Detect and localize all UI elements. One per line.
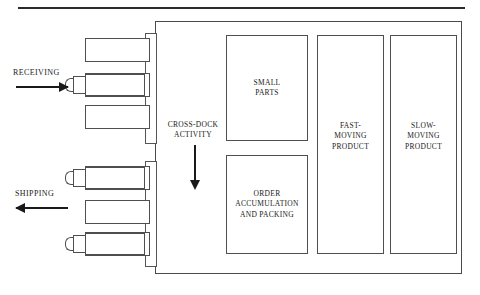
receiving-bay-3 <box>85 105 150 129</box>
zone-fast-moving-product: FAST- MOVING PRODUCT <box>317 35 384 254</box>
zone-small-parts-label: SMALL PARTS <box>254 78 281 99</box>
shipping-truck-1 <box>63 167 145 189</box>
zone-order-accumulation-label: ORDER ACCUMULATION AND PACKING <box>235 189 299 221</box>
zone-fast-moving-label: FAST- MOVING PRODUCT <box>332 121 369 153</box>
truck-trailer-icon <box>85 167 145 189</box>
cross-dock-activity-label: CROSS-DOCK ACTIVITY <box>157 120 229 140</box>
zone-small-parts: SMALL PARTS <box>226 35 308 141</box>
zone-slow-moving-label: SLOW- MOVING PRODUCT <box>405 121 442 153</box>
receiving-truck <box>63 74 145 96</box>
zone-slow-moving-product: SLOW- MOVING PRODUCT <box>390 35 457 254</box>
shipping-label: SHIPPING <box>15 189 54 198</box>
top-divider-rule <box>18 7 465 9</box>
shipping-truck-2 <box>63 233 145 255</box>
truck-trailer-icon <box>85 233 145 255</box>
receiving-bay-1 <box>85 38 150 62</box>
receiving-label: RECEIVING <box>13 68 60 77</box>
warehouse-layout-diagram: RECEIVING SHIPPING CROSS-DOCK ACTIVITY S… <box>0 0 480 295</box>
zone-order-accumulation-and-packing: ORDER ACCUMULATION AND PACKING <box>226 155 308 254</box>
receiving-arrow-right-icon <box>16 82 68 92</box>
cross-dock-arrow-down-icon <box>190 145 200 190</box>
truck-trailer-icon <box>85 74 145 96</box>
shipping-arrow-left-icon <box>16 203 68 213</box>
shipping-bay-2 <box>85 200 150 224</box>
